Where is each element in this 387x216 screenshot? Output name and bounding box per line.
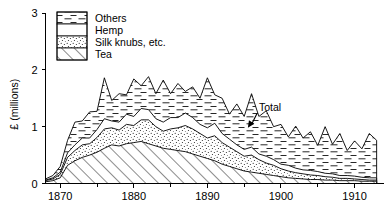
y-tick-label: 1 xyxy=(31,121,37,133)
legend-swatch-hemp xyxy=(57,24,87,36)
y-tick-label: 2 xyxy=(31,64,37,76)
x-tick-label: 1900 xyxy=(269,190,293,202)
y-tick-label: 3 xyxy=(31,7,37,19)
x-tick-label: 1880 xyxy=(122,190,146,202)
stacked-area-chart: 187018801890190019100123 OthersHempSilk … xyxy=(0,0,387,216)
chart-legend: OthersHempSilk knubs, etc.Tea xyxy=(57,12,166,61)
y-axis-title: £ (millions) xyxy=(8,79,20,130)
legend-swatch-others xyxy=(57,12,87,24)
x-tick-label: 1870 xyxy=(48,190,72,202)
annotation-label-total: Total xyxy=(259,101,281,113)
x-tick-label: 1910 xyxy=(342,190,366,202)
legend-label-tea: Tea xyxy=(95,48,112,60)
legend-swatch-tea xyxy=(57,48,87,60)
y-tick-label: 0 xyxy=(31,178,37,190)
legend-label-silk-knubs-etc: Silk knubs, etc. xyxy=(95,36,166,48)
legend-swatch-silk-knubs-etc xyxy=(57,36,87,48)
x-tick-label: 1890 xyxy=(195,190,219,202)
series-layer xyxy=(46,77,377,184)
legend-label-hemp: Hemp xyxy=(95,24,123,36)
chart-container: 187018801890190019100123 OthersHempSilk … xyxy=(0,0,387,216)
legend-label-others: Others xyxy=(95,12,127,24)
